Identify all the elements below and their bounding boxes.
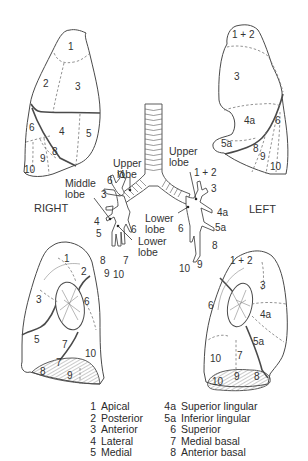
segment-label: 3 xyxy=(36,294,42,305)
segment-label: 8 xyxy=(253,143,259,154)
legend-item: 5Medial xyxy=(88,447,154,459)
right-lung-lateral-view: 1 2 3 4 5 6 8 9 10 xyxy=(24,30,100,177)
segment-label: 3 xyxy=(234,71,240,82)
left-lung-medial-view: 1 + 2 3 4a 5a 6 7 10 10 9 8 xyxy=(204,251,287,391)
right-middle-lobe-label: lobe xyxy=(65,188,85,200)
branch-label: 3 xyxy=(101,189,107,200)
left-lower-lobe-label: lobe xyxy=(145,223,165,235)
segment-label: 10 xyxy=(210,353,222,364)
segment-label: 8 xyxy=(40,366,46,377)
segment-label: 4a xyxy=(244,115,256,126)
left-lung-lateral-view: 1 + 2 3 4a 5a 6 8 9 10 xyxy=(213,25,288,174)
segment-label: 7 xyxy=(56,357,62,368)
branch-label: 8 xyxy=(100,255,106,266)
branch-label: 6 xyxy=(178,223,184,234)
segment-label: 5a xyxy=(253,336,265,347)
branch-label: 4 xyxy=(94,216,100,227)
segment-label: 2 xyxy=(43,78,49,89)
branch-label: 5a xyxy=(215,222,227,233)
segment-label: 10 xyxy=(24,164,36,175)
segment-label: 9 xyxy=(67,370,73,381)
branch-label: 9 xyxy=(104,268,110,279)
branch-label: 8 xyxy=(212,240,218,251)
segment-label: 5a xyxy=(221,138,233,149)
segment-label: 6 xyxy=(29,122,35,133)
segment-label: 8 xyxy=(254,371,260,382)
right-side-label: RIGHT xyxy=(34,202,69,214)
left-upper-lobe-label: lobe xyxy=(169,156,189,168)
branch-label: 6 xyxy=(131,224,137,235)
branch-label: 7 xyxy=(123,255,129,266)
segment-label: 2 xyxy=(81,266,87,277)
legend-item: 8Anterior basal xyxy=(160,447,300,459)
right-lower-lobe-label: lobe xyxy=(138,246,158,258)
segment-label: 6 xyxy=(208,300,214,311)
branch-label: 10 xyxy=(179,263,191,274)
segment-label: 9 xyxy=(234,371,240,382)
segment-legend: 1Apical 2Posterior 3Anterior 4Lateral 5M… xyxy=(88,401,298,459)
branch-label: 6 xyxy=(107,175,113,186)
segment-label: 9 xyxy=(260,151,266,162)
segment-label: 10 xyxy=(212,376,224,387)
segment-label: 9 xyxy=(40,153,46,164)
branch-label: 5 xyxy=(96,228,102,239)
branch-label: 1 + 2 xyxy=(194,167,217,178)
segment-label: 3 xyxy=(260,280,266,291)
segment-label: 7 xyxy=(62,339,68,350)
left-side-label: LEFT xyxy=(249,203,276,215)
branch-label: 10 xyxy=(113,269,125,280)
segment-label: 3 xyxy=(75,81,81,92)
segment-label: 6 xyxy=(84,296,90,307)
segment-label: 4 xyxy=(59,126,65,137)
segment-label: 1 + 2 xyxy=(232,29,255,40)
segment-label: 5 xyxy=(34,334,40,345)
segment-label: 1 xyxy=(68,41,74,52)
lung-segments-diagram: 1 2 3 4 5 6 8 9 10 1 + 2 3 4a 5a 6 8 9 1… xyxy=(0,0,308,461)
segment-label: 6 xyxy=(275,115,281,126)
segment-label: 1 xyxy=(64,253,70,264)
right-lung-medial-view: 1 2 3 5 6 7 7 8 9 10 xyxy=(21,242,104,384)
segment-label: 8 xyxy=(52,146,58,157)
segment-label: 10 xyxy=(85,348,97,359)
segment-label: 5 xyxy=(86,128,92,139)
segment-label: 1 + 2 xyxy=(230,255,253,266)
branch-label: 4a xyxy=(217,207,229,218)
segment-label: 7 xyxy=(237,350,243,361)
branch-label: 9 xyxy=(197,259,203,270)
branch-label: 1 xyxy=(120,169,126,180)
branch-label: 3 xyxy=(211,183,217,194)
legend-column-2: 4aSuperior lingular 5aInferior lingular … xyxy=(160,401,300,459)
segment-label: 10 xyxy=(270,161,282,172)
legend-column-1: 1Apical 2Posterior 3Anterior 4Lateral 5M… xyxy=(88,401,154,459)
segment-label: 4a xyxy=(260,309,272,320)
